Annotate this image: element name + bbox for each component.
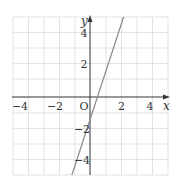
coordinate-plane: −4 −2 2 4 O 4 2 −2 −4 x y	[0, 0, 176, 186]
x-tick-label: 2	[118, 100, 125, 113]
y-tick-label: −2	[74, 123, 90, 136]
y-axis-arrow-icon	[88, 15, 93, 22]
line-series	[72, 17, 124, 175]
x-tick-label: −2	[47, 100, 63, 113]
x-tick-label: −4	[12, 100, 28, 113]
x-axis-label: x	[163, 99, 170, 113]
y-tick-label: −4	[74, 154, 90, 167]
origin-label: O	[79, 100, 88, 113]
y-axis-label: y	[80, 14, 88, 28]
y-tick-label: 4	[81, 27, 88, 40]
axes	[12, 19, 166, 175]
x-tick-label: 4	[147, 100, 154, 113]
y-tick-label: 2	[81, 58, 88, 71]
